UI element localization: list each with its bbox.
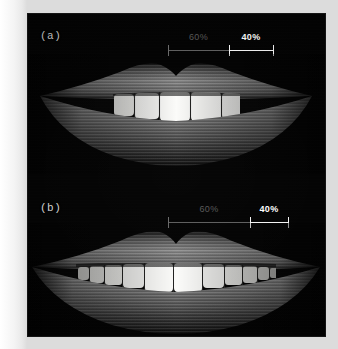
figure-black-panel: (a) 60% 40% [28, 14, 325, 336]
subfigure-b: (b) 60% 40% [28, 175, 325, 336]
mouth-illustration-a [28, 14, 325, 175]
subfigure-a: (a) 60% 40% [28, 14, 325, 175]
figure-root: (a) 60% 40% [0, 0, 338, 349]
mouth-illustration-b [28, 175, 325, 336]
